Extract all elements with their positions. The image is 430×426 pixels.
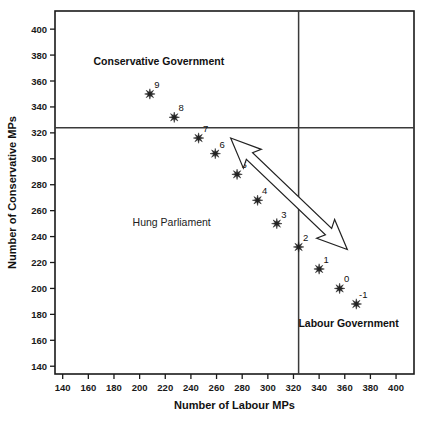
y-tick-label: 200 xyxy=(31,283,47,294)
data-point-marker xyxy=(145,89,155,99)
data-point-label: 6 xyxy=(220,139,225,150)
data-point-marker xyxy=(252,195,262,205)
y-axis-title: Number of Conservative MPs xyxy=(6,116,18,269)
data-point-marker xyxy=(193,133,203,143)
x-tick-label: 240 xyxy=(183,382,199,393)
data-point-label: 2 xyxy=(303,232,308,243)
y-tick-label: 180 xyxy=(31,309,47,320)
y-tick-label: 260 xyxy=(31,205,47,216)
data-point-marker xyxy=(334,283,344,293)
y-tick-label: 380 xyxy=(31,50,47,61)
y-tick-label: 400 xyxy=(31,24,47,35)
y-tick-label: 160 xyxy=(31,335,47,346)
data-point-label: 4 xyxy=(262,185,267,196)
conservative-government: Conservative Government xyxy=(93,55,224,67)
y-tick-label: 280 xyxy=(31,179,47,190)
labour-government: Labour Government xyxy=(298,317,399,329)
data-point-marker xyxy=(210,148,220,158)
x-tick-label: 160 xyxy=(80,382,96,393)
swing-arrow xyxy=(231,138,348,249)
y-tick-label: 320 xyxy=(31,127,47,138)
y-tick-label: 140 xyxy=(31,361,47,372)
y-tick-label: 300 xyxy=(31,153,47,164)
data-point-label: 3 xyxy=(281,209,286,220)
x-tick-label: 140 xyxy=(55,382,71,393)
y-tick-label: 240 xyxy=(31,231,47,242)
data-point-label: 7 xyxy=(203,123,208,134)
data-point-label: 8 xyxy=(179,102,184,113)
x-tick-label: 360 xyxy=(337,382,353,393)
x-tick-label: 320 xyxy=(286,382,302,393)
x-tick-label: 220 xyxy=(157,382,173,393)
y-tick-label: 360 xyxy=(31,76,47,87)
y-tick-label: 340 xyxy=(31,101,47,112)
data-point-marker xyxy=(232,169,242,179)
data-point-marker xyxy=(314,264,324,274)
y-tick-label: 220 xyxy=(31,257,47,268)
x-tick-label: 260 xyxy=(209,382,225,393)
x-tick-label: 340 xyxy=(311,382,327,393)
x-tick-label: 180 xyxy=(106,382,122,393)
data-point-label: 1 xyxy=(323,254,328,265)
data-point-label: 0 xyxy=(344,273,349,284)
x-tick-label: 300 xyxy=(260,382,276,393)
data-point-marker xyxy=(272,218,282,228)
hung-parliament: Hung Parliament xyxy=(133,216,211,228)
x-tick-label: 200 xyxy=(132,382,148,393)
x-tick-label: 280 xyxy=(234,382,250,393)
data-point-marker xyxy=(169,112,179,122)
scatter-chart: 1401601802002202402602803003203403603804… xyxy=(0,0,430,426)
x-tick-label: 380 xyxy=(362,382,378,393)
data-point-label: 9 xyxy=(154,79,159,90)
chart-canvas: 1401601802002202402602803003203403603804… xyxy=(0,0,430,426)
data-point-marker xyxy=(351,299,361,309)
x-axis-title: Number of Labour MPs xyxy=(174,399,295,411)
x-tick-label: 400 xyxy=(388,382,404,393)
data-point-label: -1 xyxy=(359,289,367,300)
data-point-marker xyxy=(293,242,303,252)
